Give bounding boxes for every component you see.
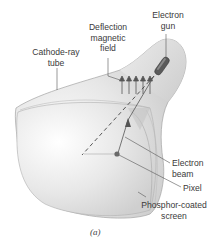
label-deflection-field: Deflection magnetic field <box>84 22 132 54</box>
figure-caption: (a) <box>90 227 101 237</box>
label-pixel: Pixel <box>183 183 202 194</box>
label-cathode-ray-tube: Cathode-ray tube <box>28 47 84 68</box>
label-electron-gun: Electron gun <box>146 10 190 31</box>
label-electron-beam: Electron beam <box>172 158 204 179</box>
label-phosphor-screen: Phosphor-coated screen <box>135 200 213 221</box>
pixel-dot <box>114 151 119 156</box>
